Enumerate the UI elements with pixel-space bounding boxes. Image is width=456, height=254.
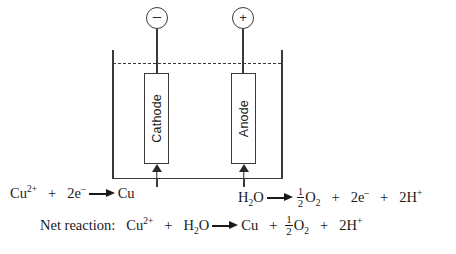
net-plus-1: + — [164, 218, 172, 233]
cathode-lead-wire — [156, 29, 157, 73]
anode-lead-wire — [242, 29, 243, 73]
cathode-label: Cathode — [150, 94, 164, 143]
cathode-product: Cu — [118, 186, 135, 201]
anode-plus-1: + — [331, 190, 339, 205]
negative-terminal-symbol: – — [153, 8, 161, 23]
anode-electrode: Anode — [231, 73, 256, 164]
net-fraction: 1 2 — [285, 214, 293, 237]
beaker-right-wall — [281, 50, 283, 179]
anode-label: Anode — [237, 100, 251, 137]
positive-terminal: + — [232, 7, 254, 29]
cathode-electrode: Cathode — [144, 73, 169, 164]
anode-plus-2: + — [380, 190, 388, 205]
beaker-left-wall — [112, 50, 114, 179]
net-plus-2: + — [269, 218, 277, 233]
anode-half-fraction: 1 2 — [297, 186, 305, 209]
electrolysis-diagram: – + Cathode Anode Cu2+ + 2e– Cu — [0, 0, 456, 254]
negative-terminal: – — [146, 7, 168, 29]
cathode-plus-1: + — [48, 186, 56, 201]
cathode-reactant-ion: Cu2+ — [10, 186, 37, 201]
anode-reaction-arrow-icon — [267, 193, 293, 203]
anode-oxygen: O2 — [305, 190, 320, 205]
net-reaction: Net reaction: Cu2+ + H2O Cu + 1 2 O2 + 2… — [40, 214, 362, 237]
net-reaction-arrow-icon — [212, 221, 238, 231]
net-water: H2O — [184, 218, 210, 233]
net-plus-3: + — [320, 218, 328, 233]
electrolyte-surface-line — [113, 63, 281, 64]
net-copper: Cu — [241, 218, 258, 233]
anode-reactant-water: H2O — [238, 190, 264, 205]
anode-electrons: 2e– — [351, 190, 369, 205]
cathode-half-reaction: Cu2+ + 2e– Cu — [10, 186, 135, 201]
anode-protons: 2H+ — [399, 190, 422, 205]
net-protons: 2H+ — [339, 218, 362, 233]
beaker-bottom-wall — [112, 178, 283, 180]
net-reaction-label: Net reaction: — [40, 218, 115, 233]
anode-half-reaction: H2O 1 2 O2 + 2e– + 2H+ — [238, 186, 422, 209]
cathode-reaction-arrow-icon — [89, 188, 115, 198]
net-copper-ion: Cu2+ — [126, 218, 153, 233]
positive-terminal-symbol: + — [239, 11, 247, 24]
cathode-electrons: 2e– — [67, 186, 85, 201]
net-oxygen: O2 — [294, 218, 309, 233]
cathode-arrow-stem — [156, 178, 157, 187]
